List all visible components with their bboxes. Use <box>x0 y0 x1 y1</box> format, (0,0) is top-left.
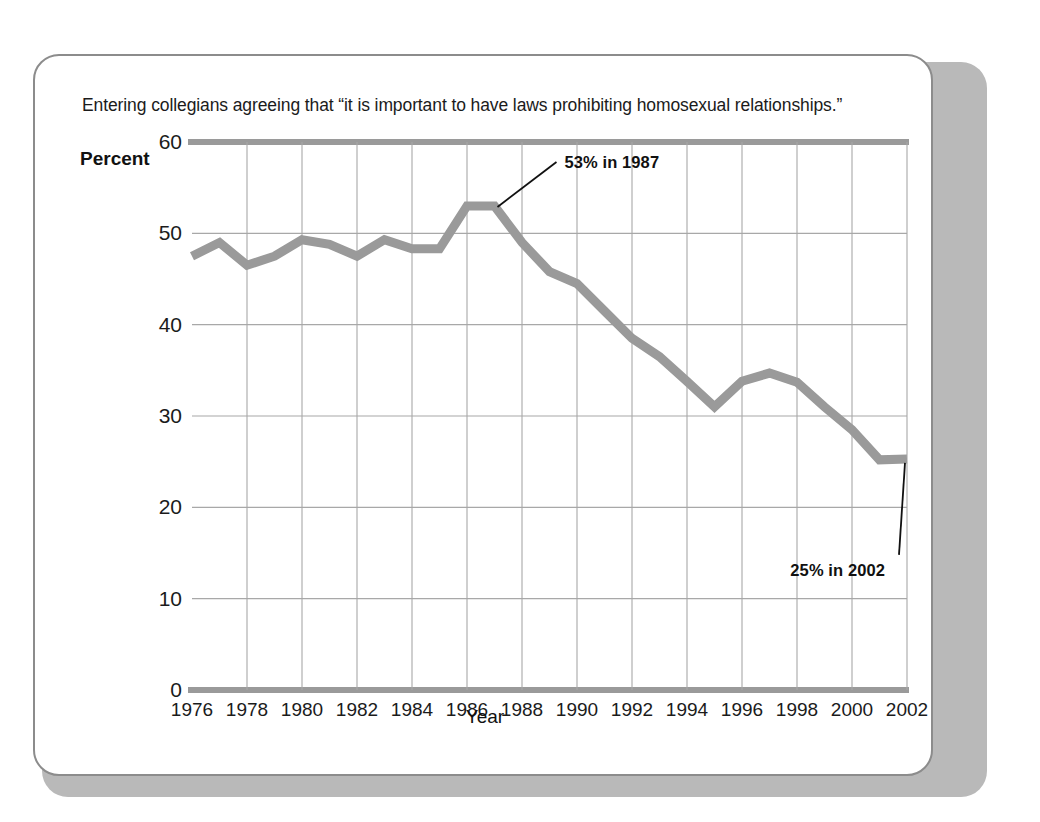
data-point-annotation: 25% in 2002 <box>790 561 885 580</box>
line-chart-svg <box>192 142 907 690</box>
y-axis-tick-label: 30 <box>159 404 182 428</box>
figure-card: Entering collegians agreeing that “it is… <box>33 54 933 776</box>
plot-area: 6050403020100197619781980198219841986198… <box>192 142 907 690</box>
data-point-annotation: 53% in 1987 <box>565 153 660 172</box>
y-axis-tick-label: 20 <box>159 495 182 519</box>
y-axis-label: Percent <box>80 148 150 170</box>
chart-title: Entering collegians agreeing that “it is… <box>82 95 922 116</box>
y-axis-tick-label: 50 <box>159 221 182 245</box>
y-axis-tick-label: 40 <box>159 312 182 336</box>
y-axis-tick-label: 60 <box>159 130 182 154</box>
screenshot-root: Entering collegians agreeing that “it is… <box>0 0 1040 822</box>
x-axis-label: Year <box>35 706 935 728</box>
y-axis-tick-label: 0 <box>170 678 182 702</box>
y-axis-tick-label: 10 <box>159 586 182 610</box>
